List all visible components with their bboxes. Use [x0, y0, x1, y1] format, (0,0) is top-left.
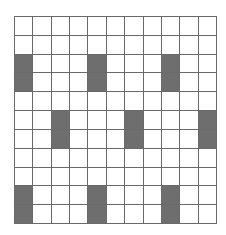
grid-cell: [162, 149, 180, 168]
grid-cell: [125, 36, 143, 55]
grid-cell: [144, 92, 162, 111]
shaded-cell: [15, 55, 33, 74]
grid-cell: [70, 130, 88, 149]
grid-cell: [144, 17, 162, 36]
grid-cell: [125, 55, 143, 74]
pattern-grid: [14, 16, 217, 224]
grid-cell: [88, 36, 106, 55]
grid-cell: [15, 111, 33, 130]
grid-cell: [70, 92, 88, 111]
grid-cell: [199, 186, 217, 205]
grid-cell: [70, 17, 88, 36]
grid-cell: [180, 186, 198, 205]
grid-cell: [52, 186, 70, 205]
grid-cell: [199, 55, 217, 74]
grid-cell: [144, 186, 162, 205]
grid-cell: [107, 92, 125, 111]
shaded-cell: [88, 73, 106, 92]
grid-cell: [88, 17, 106, 36]
grid-cell: [125, 168, 143, 187]
grid-cell: [88, 149, 106, 168]
grid-cell: [162, 17, 180, 36]
grid-cell: [125, 73, 143, 92]
shaded-cell: [52, 111, 70, 130]
grid-cell: [33, 168, 51, 187]
grid-cell: [107, 168, 125, 187]
shaded-cell: [52, 130, 70, 149]
grid-cell: [70, 36, 88, 55]
grid-cell: [70, 73, 88, 92]
grid-cell: [52, 36, 70, 55]
grid-cell: [125, 92, 143, 111]
shaded-cell: [15, 205, 33, 224]
grid-cell: [180, 130, 198, 149]
grid-cell: [144, 168, 162, 187]
grid-cell: [52, 205, 70, 224]
grid-cell: [199, 73, 217, 92]
grid-cell: [88, 130, 106, 149]
grid-cell: [52, 92, 70, 111]
grid-cell: [180, 36, 198, 55]
grid-cell: [33, 205, 51, 224]
grid-cell: [70, 111, 88, 130]
grid-cell: [180, 111, 198, 130]
grid-cell: [180, 92, 198, 111]
grid-cell: [144, 149, 162, 168]
grid-cell: [125, 149, 143, 168]
shaded-cell: [199, 130, 217, 149]
grid-cell: [199, 92, 217, 111]
grid-cell: [144, 130, 162, 149]
shaded-cell: [88, 205, 106, 224]
grid-cell: [15, 36, 33, 55]
grid-cell: [33, 55, 51, 74]
shaded-cell: [125, 130, 143, 149]
grid-cell: [33, 130, 51, 149]
grid-cell: [33, 92, 51, 111]
shaded-cell: [199, 111, 217, 130]
grid-cell: [162, 130, 180, 149]
grid-cell: [180, 73, 198, 92]
grid-cell: [199, 17, 217, 36]
grid-cell: [52, 149, 70, 168]
grid-cell: [162, 36, 180, 55]
grid-cell: [107, 36, 125, 55]
grid-cell: [199, 168, 217, 187]
grid-cell: [107, 149, 125, 168]
grid-cell: [52, 168, 70, 187]
grid-cell: [15, 92, 33, 111]
shaded-cell: [15, 73, 33, 92]
grid-cell: [70, 186, 88, 205]
grid-cell: [125, 17, 143, 36]
grid-cell: [107, 130, 125, 149]
grid-cell: [33, 36, 51, 55]
grid-cell: [107, 186, 125, 205]
grid-cell: [107, 73, 125, 92]
grid-cell: [180, 17, 198, 36]
grid-cell: [15, 17, 33, 36]
grid-cell: [180, 205, 198, 224]
grid-cell: [33, 17, 51, 36]
grid-cell: [180, 55, 198, 74]
grid-cell: [33, 149, 51, 168]
grid-cell: [199, 149, 217, 168]
grid-cell: [33, 73, 51, 92]
shaded-cell: [88, 186, 106, 205]
grid-cell: [70, 55, 88, 74]
shaded-cell: [162, 55, 180, 74]
shaded-cell: [125, 111, 143, 130]
shaded-cell: [162, 186, 180, 205]
grid-cell: [107, 55, 125, 74]
grid-cell: [144, 111, 162, 130]
grid-cell: [70, 205, 88, 224]
grid-cell: [52, 17, 70, 36]
grid-cell: [70, 168, 88, 187]
grid-cell: [88, 168, 106, 187]
grid-cell: [88, 92, 106, 111]
grid-cell: [52, 55, 70, 74]
grid-cell: [70, 149, 88, 168]
grid-cell: [180, 149, 198, 168]
grid-cell: [15, 130, 33, 149]
grid-cell: [199, 36, 217, 55]
grid-cell: [33, 186, 51, 205]
grid-cell: [125, 186, 143, 205]
